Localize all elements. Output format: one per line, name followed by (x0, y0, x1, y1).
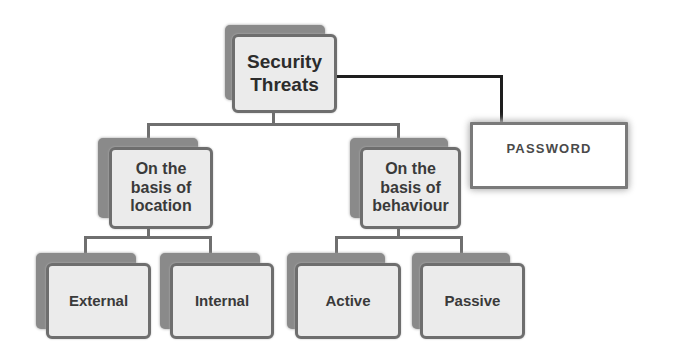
category-node-behaviour: On the basis of behaviour (360, 147, 461, 229)
leaf-node-external: External (46, 263, 151, 339)
connector-categories-h (147, 123, 400, 126)
category-node-location: On the basis of location (109, 147, 213, 229)
location-label-line2: basis of (130, 179, 191, 198)
connector-to-location (147, 123, 150, 139)
connector-to-passive (460, 236, 463, 254)
connector-to-internal (209, 236, 212, 254)
connector-root-to-password-v (500, 75, 503, 124)
connector-behaviour-leaves-h (335, 236, 463, 239)
internal-label: Internal (195, 292, 249, 310)
connector-to-active (335, 236, 338, 254)
root-label-line2: Threats (247, 74, 322, 96)
passive-label: Passive (445, 292, 501, 310)
active-label: Active (325, 292, 370, 310)
password-node: PASSWORD (470, 122, 628, 189)
leaf-node-passive: Passive (420, 263, 525, 339)
connector-location-leaves-h (84, 236, 212, 239)
leaf-node-internal: Internal (170, 263, 274, 339)
location-label-line3: location (130, 197, 191, 216)
behaviour-label-line3: behaviour (372, 197, 448, 216)
root-label-line1: Security (247, 51, 322, 73)
security-threats-diagram: Security Threats PASSWORD On the basis o… (0, 0, 673, 357)
location-label-line1: On the (130, 160, 191, 179)
root-node-security-threats: Security Threats (232, 34, 337, 113)
behaviour-label-line2: basis of (372, 179, 448, 198)
connector-to-external (84, 236, 87, 254)
connector-root-to-password-h (337, 75, 503, 78)
password-label: PASSWORD (506, 141, 591, 156)
behaviour-label-line1: On the (372, 160, 448, 179)
connector-to-behaviour (397, 123, 400, 139)
external-label: External (69, 292, 128, 310)
leaf-node-active: Active (295, 263, 401, 339)
